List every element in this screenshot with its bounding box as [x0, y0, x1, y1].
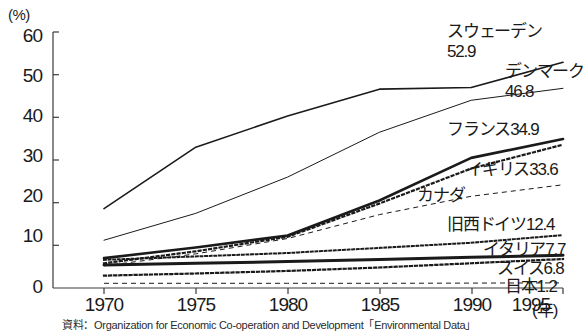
series-label-west-germany: 旧西ドイツ12.4 — [447, 215, 554, 234]
source-caption: 資料：Organization for Economic Co-operatio… — [62, 316, 476, 332]
x-tick-1985: 1985 — [340, 294, 420, 316]
series-label-italy: イタリア7.7 — [483, 240, 565, 259]
x-tick-1970: 1970 — [64, 294, 144, 316]
series-label-japan: 日本1.2 — [505, 277, 557, 296]
series-label-uk: イギリス33.6 — [466, 160, 558, 179]
series-label-france: フランス34.9 — [447, 120, 539, 139]
x-tick-1980: 1980 — [248, 294, 328, 316]
series-value-denmark: 46.8 — [505, 82, 533, 101]
series-label-sweden: スウェーデン — [447, 22, 542, 41]
series-label-switzerland: スイス6.8 — [497, 259, 563, 278]
x-tick-1995: 1995 — [491, 294, 571, 316]
x-tick-1975: 1975 — [156, 294, 236, 316]
series-value-sweden: 52.9 — [447, 42, 475, 61]
x-axis-unit-label: (年) — [532, 296, 557, 321]
series-label-denmark: デンマーク — [505, 62, 584, 81]
series-label-canada: カナダ — [417, 186, 464, 205]
